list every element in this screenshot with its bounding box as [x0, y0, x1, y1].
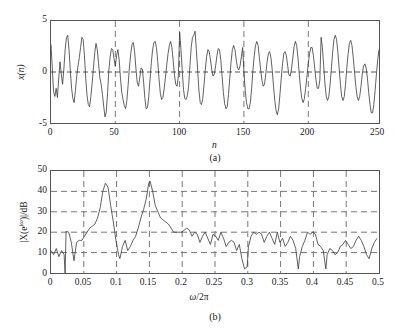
xtick-a-4: 200	[300, 128, 314, 138]
yaxis-label-b-post: )|/dB	[19, 201, 29, 220]
yaxis-label-a-text: x(n)	[16, 64, 26, 79]
spectrum-trace-b-svg	[51, 171, 379, 273]
xtick-b-7: 0.35	[272, 278, 289, 288]
yaxis-label-b: |X(ejω)|/dB	[19, 201, 29, 242]
xtick-b-3: 0.15	[140, 278, 157, 288]
yaxis-label-b-pre: |X(e	[19, 227, 29, 243]
ytick-b-3: 20	[29, 228, 47, 238]
xtick-b-0: 0	[48, 278, 53, 288]
xaxis-label-b-omega: ω	[190, 292, 197, 302]
ytick-b-5: 0	[33, 269, 47, 279]
ytick-b-4: 10	[29, 248, 47, 258]
xaxis-label-b-pi: π	[204, 292, 209, 302]
yaxis-label-b-sup: jω	[17, 220, 24, 226]
ytick-a-0: 5	[33, 15, 47, 25]
xtick-a-0: 0	[48, 128, 53, 138]
xtick-b-1: 0.05	[75, 278, 92, 288]
caption-b: (b)	[209, 311, 221, 322]
gridlines-b	[51, 171, 379, 273]
xtick-b-6: 0.3	[241, 278, 253, 288]
xtick-b-8: 0.4	[306, 278, 318, 288]
xtick-b-4: 0.2	[175, 278, 187, 288]
ytick-b-0: 50	[29, 165, 47, 175]
signal-trace-a-svg	[51, 21, 379, 123]
plot-area-b	[50, 170, 380, 274]
xtick-a-5: 250	[370, 128, 384, 138]
xtick-b-10: 0.5	[372, 278, 384, 288]
spectrum-polyline-b	[51, 181, 377, 273]
signal-polyline-a	[51, 31, 379, 117]
plot-area-a	[50, 20, 380, 124]
xaxis-label-a: n	[212, 140, 217, 150]
xtick-a-3: 150	[236, 128, 250, 138]
xtick-b-9: 0.45	[337, 278, 354, 288]
panel-b: 50 40 30 20 10 0 0 0.05 0.1 0.15 0.2 0.2…	[0, 168, 399, 335]
xaxis-label-b: ω/2π	[190, 292, 209, 302]
figure-container: 5 0 -5 0 50 100 150 200 250 n x(n) (a)	[0, 0, 399, 335]
yaxis-label-a: x(n)	[16, 64, 26, 79]
xtick-b-5: 0.25	[206, 278, 223, 288]
caption-a: (a)	[209, 152, 220, 163]
ytick-a-2: -5	[29, 119, 47, 129]
ytick-b-1: 40	[29, 186, 47, 196]
ytick-b-2: 30	[29, 207, 47, 217]
xtick-a-1: 50	[109, 128, 119, 138]
ytick-a-1: 0	[33, 67, 47, 77]
xtick-a-2: 100	[172, 128, 186, 138]
panel-a: 5 0 -5 0 50 100 150 200 250 n x(n) (a)	[0, 0, 399, 168]
xtick-b-2: 0.1	[110, 278, 122, 288]
xaxis-label-b-div: /2	[196, 292, 203, 302]
